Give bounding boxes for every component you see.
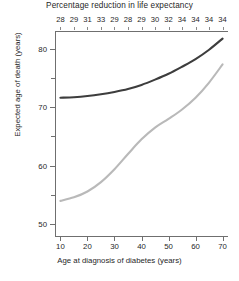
x-axis-title: Age at diagnosis of diabetes (years) (0, 256, 239, 265)
top-axis-tick (87, 27, 88, 30)
top-axis-tick (223, 27, 224, 30)
y-axis-label: 60 (38, 161, 47, 170)
y-axis-label: 80 (38, 44, 47, 53)
top-axis-value: 29 (137, 15, 145, 24)
x-axis-tick (114, 237, 115, 241)
x-axis-label: 40 (137, 242, 146, 251)
top-axis-value: 30 (151, 15, 159, 24)
top-axis-tick (182, 27, 183, 30)
top-axis-tick (101, 27, 102, 30)
y-axis-label: 50 (38, 220, 47, 229)
line-no-diabetes (60, 39, 222, 98)
x-axis-label: 20 (83, 242, 92, 251)
top-axis-tick (209, 27, 210, 30)
top-axis-tick (142, 27, 143, 30)
top-axis-value: 28 (56, 15, 64, 24)
x-axis-label: 30 (110, 242, 119, 251)
x-axis-label: 60 (191, 242, 200, 251)
x-axis-tick (142, 237, 143, 241)
top-axis-tick (60, 27, 61, 30)
x-axis-tick (169, 237, 170, 241)
top-axis-tick (196, 27, 197, 30)
x-axis-tick (60, 237, 61, 241)
top-axis-tick (169, 27, 170, 30)
x-axis-label: 70 (218, 242, 227, 251)
top-axis-title: Percentage reduction in life expectancy (0, 1, 239, 10)
plot-lines (55, 31, 228, 236)
top-axis-value: 29 (110, 15, 118, 24)
top-axis-tick-labels: 28293133292829303234343434 (55, 15, 228, 26)
x-axis-tick (223, 237, 224, 241)
top-axis-tick (155, 27, 156, 30)
y-axis-title: Expected age of death (years) (13, 10, 22, 160)
y-axis-label: 70 (38, 103, 47, 112)
top-axis-value: 34 (191, 15, 199, 24)
top-axis-tick (114, 27, 115, 30)
x-axis-tick (196, 237, 197, 241)
top-axis-value: 29 (70, 15, 78, 24)
x-axis-tick (87, 237, 88, 241)
top-axis-value: 32 (164, 15, 172, 24)
top-axis-tick (128, 27, 129, 30)
x-axis-label: 50 (164, 242, 173, 251)
top-axis-tick (74, 27, 75, 30)
top-axis-value: 28 (124, 15, 132, 24)
top-axis-value: 31 (83, 15, 91, 24)
top-axis-value: 33 (97, 15, 105, 24)
top-axis-value: 34 (178, 15, 186, 24)
chart-container: Percentage reduction in life expectancy … (0, 0, 239, 281)
x-axis-label: 10 (56, 242, 65, 251)
top-axis-value: 34 (218, 15, 226, 24)
top-axis-value: 34 (205, 15, 213, 24)
